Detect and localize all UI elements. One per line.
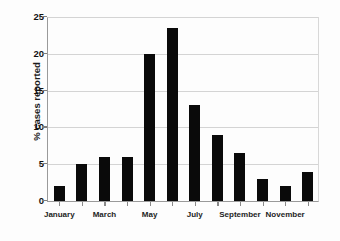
x-tick-mark bbox=[82, 202, 83, 206]
x-tick-mark bbox=[172, 202, 173, 206]
bar bbox=[167, 28, 178, 201]
bar bbox=[234, 153, 245, 201]
y-tick-mark bbox=[42, 16, 47, 17]
bar bbox=[280, 186, 291, 201]
y-tick-label: 5 bbox=[4, 159, 44, 169]
bar bbox=[302, 172, 313, 201]
bar bbox=[144, 54, 155, 201]
x-tick-label: November bbox=[266, 210, 305, 219]
x-tick-mark bbox=[240, 202, 241, 206]
x-tick-mark bbox=[285, 202, 286, 206]
bar bbox=[189, 105, 200, 201]
x-tick-label: May bbox=[142, 210, 158, 219]
bar bbox=[76, 164, 87, 201]
y-tick-label: 20 bbox=[4, 49, 44, 59]
y-tick-label: 15 bbox=[4, 86, 44, 96]
bar bbox=[99, 157, 110, 201]
x-tick-mark bbox=[150, 202, 151, 206]
x-tick-label: March bbox=[93, 210, 117, 219]
y-tick-mark bbox=[42, 163, 47, 164]
bar bbox=[257, 179, 268, 201]
y-tick-mark bbox=[42, 53, 47, 54]
x-tick-mark bbox=[263, 202, 264, 206]
x-tick-mark bbox=[59, 202, 60, 206]
x-tick-mark bbox=[127, 202, 128, 206]
bar-chart: % cases reported 0510152025 JanuaryMarch… bbox=[0, 0, 340, 241]
y-tick-mark bbox=[42, 200, 47, 201]
x-tick-mark bbox=[104, 202, 105, 206]
y-tick-label: 10 bbox=[4, 122, 44, 132]
x-tick-mark bbox=[195, 202, 196, 206]
bar bbox=[212, 135, 223, 201]
y-tick-label: 0 bbox=[4, 196, 44, 206]
y-tick-label: 25 bbox=[4, 12, 44, 22]
x-tick-mark bbox=[308, 202, 309, 206]
y-tick-mark bbox=[42, 126, 47, 127]
y-tick-mark bbox=[42, 90, 47, 91]
x-tick-label: July bbox=[187, 210, 203, 219]
x-tick-label: September bbox=[219, 210, 260, 219]
bar bbox=[122, 157, 133, 201]
bars-layer bbox=[48, 17, 319, 201]
x-tick-mark bbox=[217, 202, 218, 206]
bar bbox=[54, 186, 65, 201]
x-tick-label: January bbox=[44, 210, 75, 219]
